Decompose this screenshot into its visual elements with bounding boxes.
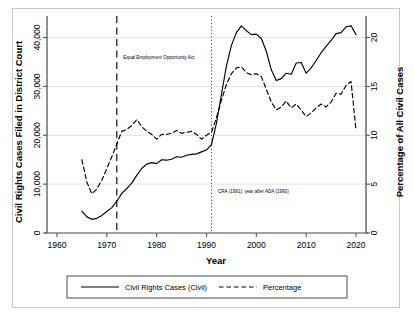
- event-annotations: Equal Employment Opportunity ActCRA (199…: [123, 55, 289, 194]
- bottom-tick-label: 2020: [347, 240, 366, 250]
- right-axis-title: Percentage of All Civil Cases: [394, 67, 405, 198]
- left-axis-title: Civil Rights Cases Filed in District Cou…: [13, 40, 24, 223]
- event-marker-lines: [117, 16, 212, 233]
- bottom-tick-label: 1970: [97, 240, 116, 250]
- left-tick-label: 0: [32, 230, 42, 235]
- annotation-label: CRA (1991), year after ADA (1990): [218, 189, 289, 194]
- dual-axis-line-chart: 010,00020,00030,00040,000 05101520 19601…: [0, 0, 414, 317]
- legend-label: Percentage: [263, 283, 301, 292]
- right-tick-label: 15: [369, 81, 379, 91]
- axis-lines: [45, 16, 368, 233]
- legend-label: Civil Rights Cases (Civil): [125, 283, 208, 292]
- chart-page: 010,00020,00030,00040,000 05101520 19601…: [0, 0, 414, 317]
- x-axis-title: Year: [206, 255, 226, 266]
- left-tick-label: 10,000: [32, 171, 42, 197]
- bottom-tick-label: 2010: [297, 240, 316, 250]
- bottom-axis-ticks: 1960197019801990200020102020: [48, 233, 366, 250]
- right-tick-label: 20: [369, 33, 379, 43]
- left-axis-ticks: 010,00020,00030,00040,000: [32, 24, 47, 235]
- right-tick-label: 5: [369, 182, 379, 187]
- bottom-tick-label: 1960: [48, 240, 67, 250]
- annotation-label: Equal Employment Opportunity Act: [123, 55, 195, 60]
- chart-legend: Civil Rights Cases (Civil)Percentage: [67, 276, 347, 298]
- bottom-tick-label: 2000: [247, 240, 266, 250]
- right-axis-ticks: 05101520: [366, 33, 379, 236]
- bottom-tick-label: 1980: [147, 240, 166, 250]
- series-line: [82, 67, 356, 194]
- right-tick-label: 10: [369, 130, 379, 140]
- left-tick-label: 30,000: [32, 73, 42, 99]
- right-tick-label: 0: [369, 230, 379, 235]
- left-tick-label: 40,000: [32, 24, 42, 50]
- left-tick-label: 20,000: [32, 122, 42, 148]
- bottom-tick-label: 1990: [197, 240, 216, 250]
